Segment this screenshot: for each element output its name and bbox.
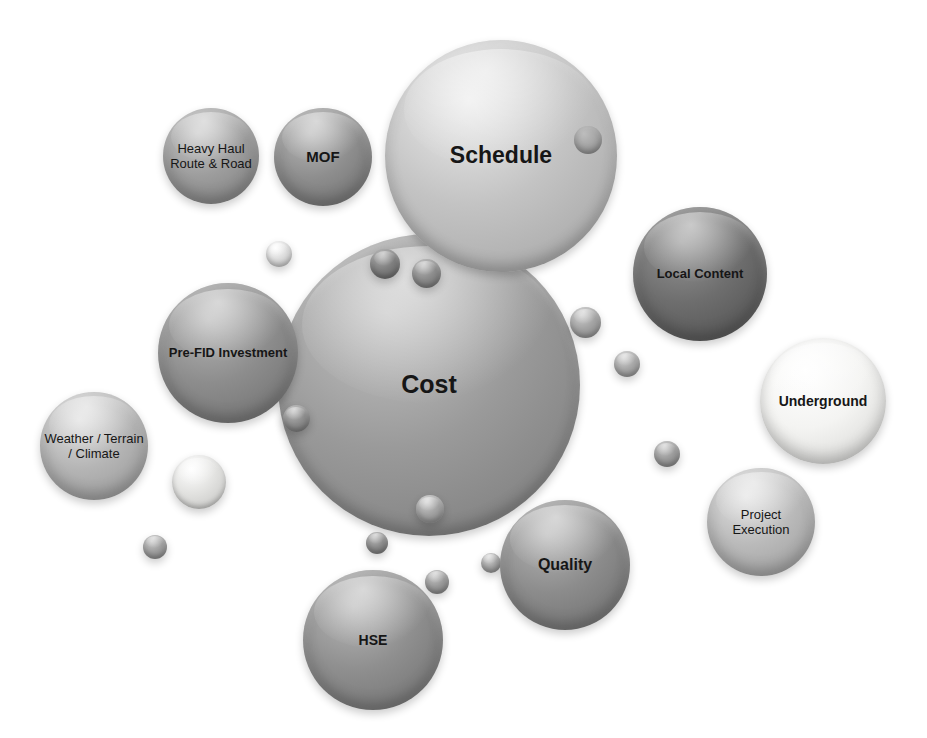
bubble-sat-13[interactable]: [654, 441, 680, 467]
bubble-pre-fid-investment[interactable]: Pre-FID Investment: [158, 283, 298, 423]
bubble-hse[interactable]: HSE: [303, 570, 443, 710]
bubble-diagram-canvas: CostScheduleLocal ContentUndergroundPre-…: [0, 0, 927, 738]
bubble-label-hse: HSE: [303, 632, 443, 649]
bubble-sat-9[interactable]: [416, 495, 444, 523]
bubble-project-execution[interactable]: Project Execution: [707, 468, 815, 576]
bubble-sat-8[interactable]: [143, 535, 167, 559]
inner-dot-schedule-inner-dot: [574, 126, 602, 154]
bubble-quality[interactable]: Quality: [500, 500, 630, 630]
bubble-label-mof: MOF: [274, 148, 372, 166]
bubble-sat-5[interactable]: [614, 351, 640, 377]
bubble-label-pre-fid-investment: Pre-FID Investment: [158, 345, 298, 360]
bubble-label-project-execution: Project Execution: [707, 507, 815, 538]
bubble-mof[interactable]: MOF: [274, 108, 372, 206]
bubble-local-content[interactable]: Local Content: [633, 207, 767, 341]
bubble-label-heavy-haul-route-road: Heavy Haul Route & Road: [163, 141, 259, 172]
bubble-sat-11[interactable]: [425, 570, 449, 594]
bubble-label-local-content: Local Content: [633, 266, 767, 281]
bubble-sat-3[interactable]: [412, 259, 441, 288]
bubble-label-quality: Quality: [500, 556, 630, 575]
bubble-schedule[interactable]: Schedule: [385, 40, 617, 272]
bubble-sat-1[interactable]: [266, 241, 292, 267]
bubble-sat-4[interactable]: [570, 307, 601, 338]
bubble-sat-2[interactable]: [370, 249, 400, 279]
bubble-sat-7[interactable]: [172, 455, 226, 509]
bubble-heavy-haul-route-road[interactable]: Heavy Haul Route & Road: [163, 108, 259, 204]
bubble-weather-terrain-climate[interactable]: Weather / Terrain / Climate: [40, 392, 148, 500]
bubble-label-cost: Cost: [278, 370, 580, 400]
bubble-sat-12[interactable]: [481, 553, 501, 573]
bubble-sat-6[interactable]: [283, 405, 310, 432]
bubble-sat-10[interactable]: [366, 532, 388, 554]
bubble-underground[interactable]: Underground: [760, 338, 886, 464]
bubble-label-underground: Underground: [760, 393, 886, 410]
bubble-label-weather-terrain-climate: Weather / Terrain / Climate: [40, 431, 148, 462]
